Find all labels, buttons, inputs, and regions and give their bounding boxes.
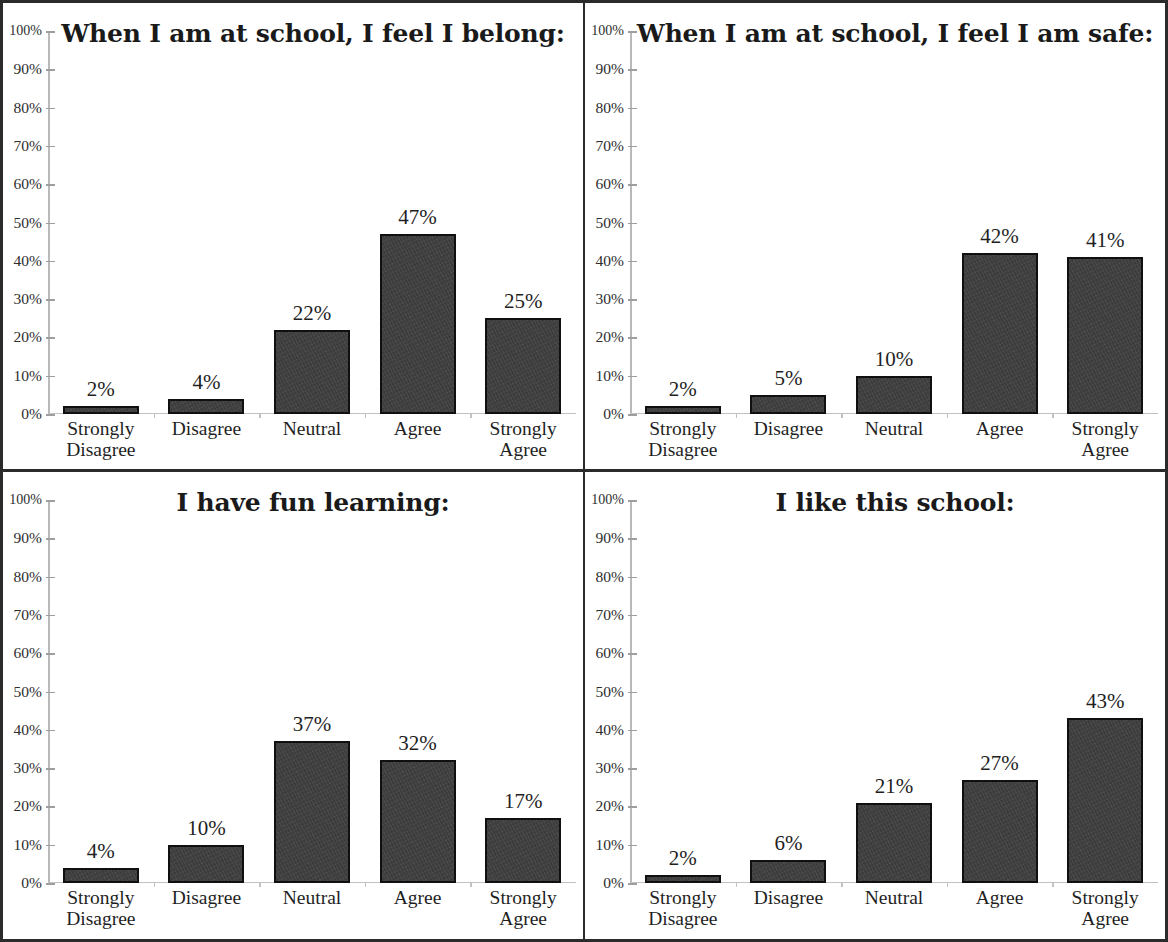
bar [962, 780, 1038, 883]
bar [274, 330, 350, 414]
y-axis-label: 50% [596, 214, 624, 232]
bar-value-label: 22% [293, 301, 332, 326]
y-axis-label: 30% [14, 290, 42, 308]
y-axis-tick [628, 299, 637, 301]
y-axis-tick [628, 730, 637, 732]
x-axis-category-label: Strongly Disagree [66, 418, 135, 460]
y-axis-tick [628, 500, 637, 502]
plot-area: 100%90%80%70%60%50%40%30%20%10%0%2%Stron… [48, 31, 576, 414]
y-axis-label: 30% [596, 759, 624, 777]
y-axis-label: 10% [14, 367, 42, 385]
y-axis-label: 0% [21, 405, 42, 423]
y-axis-tick [628, 146, 637, 148]
y-axis-tick [628, 538, 637, 540]
x-axis-tick [1052, 413, 1054, 418]
y-axis-label: 50% [14, 683, 42, 701]
x-axis-tick [736, 413, 738, 418]
bar [274, 741, 350, 883]
bar [750, 395, 826, 414]
y-axis-label: 10% [596, 836, 624, 854]
x-axis-tick [1052, 882, 1054, 887]
y-axis-label: 100% [591, 23, 624, 39]
y-axis-tick [628, 69, 637, 71]
x-axis-tick [470, 882, 472, 887]
y-axis-tick [628, 376, 637, 378]
x-axis-category-label: Disagree [172, 418, 241, 439]
x-axis-category-label: Strongly Agree [490, 887, 557, 929]
plot-area: 100%90%80%70%60%50%40%30%20%10%0%2%Stron… [630, 31, 1158, 414]
y-axis-label: 90% [14, 529, 42, 547]
y-axis-tick [46, 108, 55, 110]
x-axis-tick [736, 882, 738, 887]
bar [645, 406, 721, 414]
x-axis-category-label: Agree [394, 887, 442, 908]
y-axis-label: 100% [591, 492, 624, 508]
x-axis-tick [154, 882, 156, 887]
x-axis-category-label: Agree [976, 418, 1024, 439]
x-axis-tick [259, 413, 261, 418]
y-axis-label: 40% [14, 721, 42, 739]
x-axis-category-label: Strongly Agree [490, 418, 557, 460]
y-axis-label: 80% [596, 99, 624, 117]
y-axis-tick [46, 500, 55, 502]
x-axis-category-label: Agree [394, 418, 442, 439]
x-axis-category-label: Neutral [283, 887, 341, 908]
bar-value-label: 25% [504, 289, 543, 314]
y-axis-label: 0% [603, 405, 624, 423]
bar-value-label: 37% [293, 712, 332, 737]
y-axis-tick [46, 337, 55, 339]
bar-value-label: 10% [875, 347, 914, 372]
chart-panel-like-school: I like this school: 100%90%80%70%60%50%4… [584, 471, 1168, 942]
x-axis-category-label: Disagree [172, 887, 241, 908]
x-axis-category-label: Strongly Agree [1072, 418, 1139, 460]
y-axis-tick [628, 223, 637, 225]
y-axis-label: 20% [596, 328, 624, 346]
x-axis-category-label: Strongly Agree [1072, 887, 1139, 929]
y-axis-tick [46, 538, 55, 540]
x-axis-tick [365, 413, 367, 418]
y-axis-label: 30% [14, 759, 42, 777]
y-axis-tick [46, 730, 55, 732]
bar [485, 818, 561, 883]
bar [645, 875, 721, 883]
y-axis-tick [628, 184, 637, 186]
bar-value-label: 42% [980, 224, 1019, 249]
y-axis-tick [46, 184, 55, 186]
chart-grid: When I am at school, I feel I belong: 10… [0, 0, 1168, 942]
y-axis-tick [628, 883, 637, 885]
y-axis-tick [628, 692, 637, 694]
y-axis-label: 70% [596, 606, 624, 624]
bar-value-label: 17% [504, 789, 543, 814]
bar-value-label: 27% [980, 751, 1019, 776]
x-axis-tick [365, 882, 367, 887]
bar [380, 234, 456, 414]
y-axis-label: 60% [14, 175, 42, 193]
chart-panel-belong: When I am at school, I feel I belong: 10… [0, 0, 584, 471]
y-axis-tick [46, 577, 55, 579]
y-axis-tick [46, 31, 55, 33]
x-axis-category-label: Disagree [754, 887, 823, 908]
bar [962, 253, 1038, 414]
x-axis-category-label: Strongly Disagree [66, 887, 135, 929]
y-axis-label: 60% [596, 175, 624, 193]
x-axis-category-label: Disagree [754, 418, 823, 439]
y-axis-tick [46, 261, 55, 263]
y-axis-tick [628, 261, 637, 263]
y-axis-label: 80% [14, 99, 42, 117]
bar-value-label: 32% [398, 731, 437, 756]
bar-value-label: 10% [187, 816, 226, 841]
bar-value-label: 4% [87, 839, 115, 864]
y-axis-tick [628, 414, 637, 416]
x-axis-category-label: Neutral [283, 418, 341, 439]
x-axis-tick [947, 413, 949, 418]
y-axis-label: 100% [9, 492, 42, 508]
y-axis-label: 80% [596, 568, 624, 586]
y-axis-label: 20% [596, 797, 624, 815]
bar-value-label: 47% [398, 205, 437, 230]
bar-value-label: 21% [875, 774, 914, 799]
y-axis-tick [46, 768, 55, 770]
x-axis-category-label: Neutral [865, 418, 923, 439]
y-axis-label: 90% [14, 60, 42, 78]
plot-area: 100%90%80%70%60%50%40%30%20%10%0%2%Stron… [630, 500, 1158, 883]
y-axis-label: 70% [596, 137, 624, 155]
